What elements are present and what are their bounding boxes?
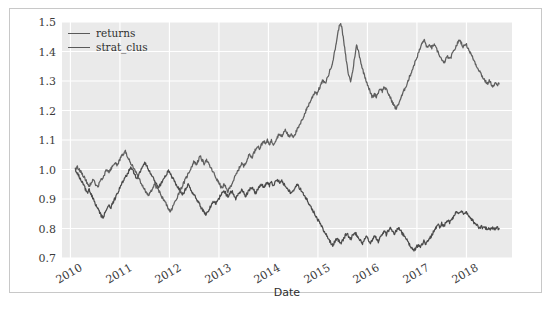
x-tick-label: 2012 <box>153 261 184 286</box>
legend-label-returns: returns <box>96 27 135 39</box>
x-tick-label: 2015 <box>302 261 333 286</box>
y-tick-label: 0.7 <box>10 252 56 265</box>
plot-area <box>62 22 512 258</box>
chart-legend: returns strat_clus <box>68 26 178 56</box>
legend-line-icon <box>68 47 90 48</box>
x-tick-label: 2016 <box>351 261 382 286</box>
y-tick-label: 0.8 <box>10 222 56 235</box>
chart-figure: 1.51.41.31.21.11.00.90.80.7 returns stra… <box>0 0 553 312</box>
y-tick-label: 1.1 <box>10 134 56 147</box>
x-tick-label: 2017 <box>401 261 432 286</box>
y-tick-label: 1.5 <box>10 16 56 29</box>
legend-label-strat-clus: strat_clus <box>96 41 148 53</box>
y-axis-tick-labels: 1.51.41.31.21.11.00.90.80.7 <box>8 22 56 258</box>
y-tick-label: 1.3 <box>10 75 56 88</box>
x-axis-title: Date <box>62 286 512 299</box>
y-tick-label: 1.2 <box>10 104 56 117</box>
y-tick-label: 1.0 <box>10 163 56 176</box>
x-tick-label: 2013 <box>203 261 234 286</box>
y-tick-label: 0.9 <box>10 193 56 206</box>
x-tick-label: 2011 <box>104 261 135 286</box>
series-line-returns <box>75 162 499 251</box>
legend-item-returns: returns <box>68 26 178 40</box>
data-lines <box>62 22 512 258</box>
y-tick-label: 1.4 <box>10 45 56 58</box>
legend-item-strat-clus: strat_clus <box>68 40 178 54</box>
x-tick-label: 2018 <box>450 261 481 286</box>
legend-line-icon <box>68 33 90 34</box>
x-tick-label: 2014 <box>252 261 283 286</box>
